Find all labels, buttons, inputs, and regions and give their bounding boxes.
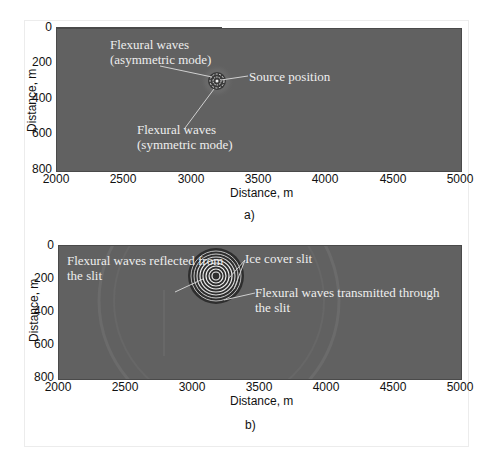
- annotation-text: the slit: [67, 268, 223, 283]
- x-tick-b-2500: 2500: [105, 380, 145, 394]
- x-tick-b-5000: 5000: [440, 380, 480, 394]
- caption-b: b): [245, 418, 256, 432]
- y-tick-b-0: 0: [24, 238, 54, 252]
- chart-area-a: Flexural waves (asymmetric mode) Source …: [56, 28, 462, 172]
- annotation-reflected-waves: Flexural waves reflected from the slit: [67, 253, 223, 283]
- y-tick-a-200: 200: [22, 55, 52, 69]
- x-tick-b-4500: 4500: [373, 380, 413, 394]
- annotation-transmitted-waves: Flexural waves transmitted through the s…: [255, 285, 440, 315]
- x-tick-a-4000: 4000: [305, 172, 345, 186]
- x-axis-label-a: Distance, m: [230, 186, 293, 200]
- x-tick-a-3500: 3500: [238, 172, 278, 186]
- x-tick-a-2000: 2000: [36, 172, 76, 186]
- annotation-text: Flexural waves: [110, 37, 211, 52]
- annotation-ice-cover-slit: Ice cover slit: [245, 251, 312, 266]
- x-tick-a-4500: 4500: [373, 172, 413, 186]
- y-axis-label-b: Distance, m: [27, 279, 41, 342]
- x-tick-b-4000: 4000: [306, 380, 346, 394]
- caption-a: a): [244, 208, 255, 222]
- y-tick-a-0: 0: [22, 20, 52, 34]
- x-tick-a-5000: 5000: [440, 172, 480, 186]
- x-axis-label-b: Distance, m: [230, 394, 293, 408]
- x-tick-b-3000: 3000: [172, 380, 212, 394]
- annotation-text: (asymmetric mode): [110, 52, 211, 67]
- chart-area-b: Flexural waves reflected from the slit I…: [58, 245, 462, 380]
- y-axis-label-a: Distance, m: [25, 69, 39, 132]
- annotation-text: Flexural waves: [137, 122, 233, 137]
- annotation-text: Flexural waves transmitted through: [255, 285, 440, 300]
- x-tick-a-2500: 2500: [103, 172, 143, 186]
- annotation-symmetric-mode: Flexural waves (symmetric mode): [137, 122, 233, 152]
- annotation-asymmetric-mode: Flexural waves (asymmetric mode): [110, 37, 211, 67]
- annotation-text: the slit: [255, 300, 440, 315]
- annotation-source-position: Source position: [249, 69, 330, 84]
- x-tick-a-3000: 3000: [171, 172, 211, 186]
- annotation-text: (symmetric mode): [137, 137, 233, 152]
- annotation-text: Flexural waves reflected from: [67, 253, 223, 268]
- x-tick-b-3500: 3500: [239, 380, 279, 394]
- x-tick-b-2000: 2000: [38, 380, 78, 394]
